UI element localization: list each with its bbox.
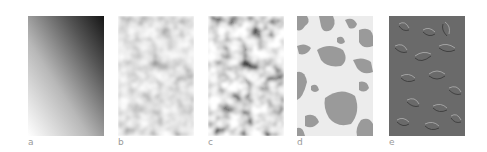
- noise-texture-c: [208, 16, 284, 136]
- panel-b-low-contrast-noise: [118, 16, 194, 136]
- emboss-map-e: [389, 16, 465, 136]
- panel-c-high-contrast-noise: [208, 16, 284, 136]
- panel-e-embossed-edges: [389, 16, 465, 136]
- noise-texture-b: [118, 16, 194, 136]
- panel-d-thresholded-blobs: [297, 16, 373, 136]
- panel-e-label: e: [389, 137, 395, 147]
- panel-d-label: d: [297, 137, 303, 147]
- blob-map-d: [297, 16, 373, 136]
- panel-a-gradient: [28, 16, 104, 136]
- panel-a-label: a: [28, 137, 34, 147]
- panel-c-label: c: [208, 137, 213, 147]
- panel-b-label: b: [118, 137, 124, 147]
